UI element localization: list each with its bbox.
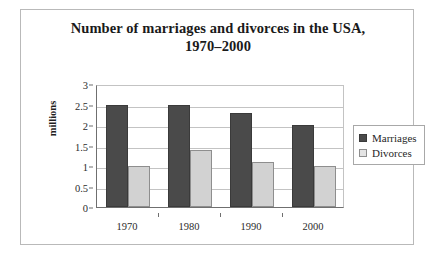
x-axis-tick-mark [282, 213, 283, 217]
y-axis-tick-label: 0.5 [75, 182, 88, 193]
y-axis-tick-label: 1 [83, 162, 88, 173]
y-axis-tick-mark [89, 167, 93, 168]
legend-item-label: Divorces [372, 147, 412, 159]
bar-divorces-1980 [190, 150, 212, 207]
legend-swatch-icon [359, 149, 367, 157]
y-axis-tick-mark [89, 85, 93, 86]
bar-marriages-1970 [106, 105, 128, 208]
bar-divorces-1990 [252, 162, 274, 207]
bar-group [221, 86, 283, 207]
chart-title: Number of marriages and divorces in the … [21, 19, 415, 55]
bar-group [159, 86, 221, 207]
bar-marriages-1980 [168, 105, 190, 208]
legend-swatch-icon [359, 134, 367, 142]
x-axis-tick-label: 1990 [241, 221, 262, 232]
bar-marriages-1990 [230, 113, 252, 207]
y-axis-tick-mark [89, 187, 93, 188]
x-axis-tick-label: 1970 [117, 221, 138, 232]
legend-item-marriages: Marriages [359, 130, 417, 145]
x-axis-tick-mark [220, 213, 221, 217]
bar-group [97, 86, 159, 207]
bar-marriages-2000 [292, 125, 314, 207]
legend-item-label: Marriages [372, 132, 417, 144]
y-axis: 00.511.522.53 [51, 85, 93, 209]
legend-item-divorces: Divorces [359, 145, 417, 160]
chart-figure: Number of marriages and divorces in the … [20, 9, 414, 245]
bar-group [283, 86, 345, 207]
y-axis-tick-mark [89, 208, 93, 209]
y-axis-tick-mark [89, 146, 93, 147]
chart-title-line-2: 1970–2000 [21, 37, 415, 55]
plot-area [96, 85, 344, 208]
x-axis: 1970198019902000 [96, 213, 346, 233]
chart-legend: MarriagesDivorces [353, 125, 425, 165]
plot-area-wrapper [96, 85, 344, 208]
y-axis-tick-mark [89, 126, 93, 127]
y-axis-tick-label: 3 [83, 80, 88, 91]
y-axis-tick-label: 0 [83, 203, 88, 214]
y-axis-tick-label: 2 [83, 121, 88, 132]
y-axis-tick-mark [89, 105, 93, 106]
chart-title-line-1: Number of marriages and divorces in the … [21, 19, 415, 37]
bar-divorces-1970 [128, 166, 150, 207]
y-axis-tick-label: 1.5 [75, 141, 88, 152]
y-axis-tick-label: 2.5 [75, 100, 88, 111]
x-axis-tick-mark [158, 213, 159, 217]
x-axis-tick-label: 2000 [303, 221, 324, 232]
bar-divorces-2000 [314, 166, 336, 207]
x-axis-tick-label: 1980 [179, 221, 200, 232]
